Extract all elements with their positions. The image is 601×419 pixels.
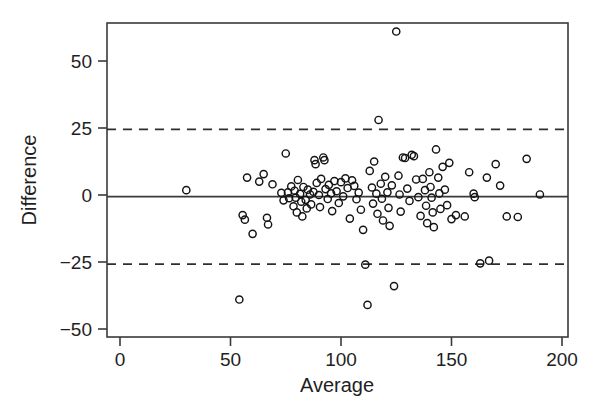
- x-axis-ticks: 050100150200: [115, 337, 578, 370]
- x-tick-label: 50: [220, 349, 241, 370]
- y-tick-label: 50: [71, 51, 92, 72]
- bland-altman-figure: 050100150200 50250−25−50 Average Differe…: [0, 0, 601, 419]
- x-tick-label: 0: [115, 349, 126, 370]
- x-tick-label: 200: [546, 349, 578, 370]
- y-tick-label: −25: [60, 252, 92, 273]
- scatter-plot-canvas: 050100150200 50250−25−50 Average Differe…: [0, 0, 601, 419]
- x-tick-label: 150: [436, 349, 468, 370]
- y-tick-label: −50: [60, 319, 92, 340]
- y-axis-ticks: 50250−25−50: [60, 51, 107, 340]
- x-axis-title: Average: [300, 374, 374, 396]
- y-axis-title: Difference: [18, 135, 40, 226]
- y-tick-label: 0: [81, 185, 92, 206]
- x-tick-label: 100: [325, 349, 357, 370]
- y-tick-label: 25: [71, 118, 92, 139]
